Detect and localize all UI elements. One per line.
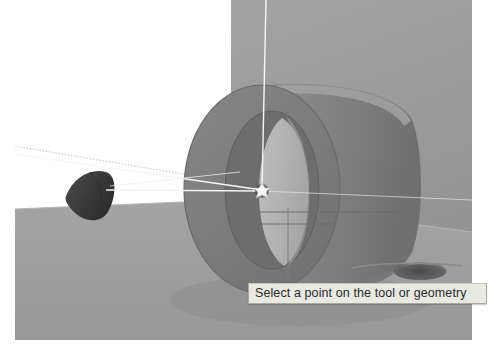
counterbore-hole (394, 264, 446, 280)
frame-margin-bottom (0, 340, 498, 354)
selection-hint-tooltip: Select a point on the tool or geometry (248, 283, 487, 304)
frame-margin-topleft (0, 0, 15, 209)
cad-3d-viewport[interactable]: Select a point on the tool or geometry (0, 0, 498, 354)
